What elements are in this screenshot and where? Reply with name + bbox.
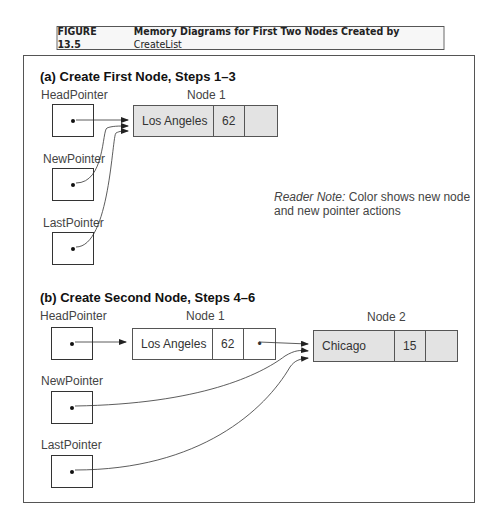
panel-b-node1: Los Angeles 62 • (132, 328, 276, 360)
panel-b-newpointer-box (51, 391, 93, 424)
panel-b-newpointer-label: NewPointer (41, 374, 103, 388)
pointer-dot-icon (71, 247, 75, 251)
figure-title-code: CreateList (134, 38, 182, 51)
panel-a-headpointer-box (52, 104, 94, 137)
panel-a-newpointer-box (52, 168, 94, 201)
figure-number: FIGURE 13.5 (57, 25, 121, 51)
panel-b-headpointer-box (51, 327, 93, 360)
panel-a-headpointer-label: HeadPointer (41, 88, 108, 102)
pointer-dot-icon (70, 406, 74, 410)
reader-note-lead: Reader Note: (274, 190, 345, 204)
panel-b-node1-label: Node 1 (186, 309, 225, 323)
pointer-dot-icon (70, 342, 74, 346)
panel-b-lastpointer-box (51, 455, 93, 488)
pointer-dot-icon (71, 119, 75, 123)
node-next-cell (426, 331, 457, 361)
node-next-cell: • (244, 329, 275, 359)
panel-a-node1: Los Angeles 62 (133, 105, 278, 137)
node-value-cell: 62 (214, 106, 245, 136)
panel-b-headpointer-label: HeadPointer (40, 309, 107, 323)
reader-note-line2: and new pointer actions (274, 204, 470, 218)
node-city-cell: Los Angeles (134, 106, 214, 136)
panel-b-title: (b) Create Second Node, Steps 4–6 (40, 290, 255, 305)
panel-a-lastpointer-box (52, 232, 94, 265)
pointer-dot-icon (70, 470, 74, 474)
figure-title: Memory Diagrams for First Two Nodes Crea… (134, 25, 400, 38)
panel-b-node2: Chicago 15 (313, 330, 458, 362)
node-city-cell: Los Angeles (133, 329, 213, 359)
panel-b-lastpointer-label: LastPointer (41, 438, 102, 452)
panel-a-newpointer-label: NewPointer (43, 152, 105, 166)
reader-note: Reader Note: Color shows new node and ne… (274, 190, 470, 218)
panel-a-title: (a) Create First Node, Steps 1–3 (40, 69, 236, 84)
pointer-dot-icon (71, 183, 75, 187)
figure-caption: FIGURE 13.5 Memory Diagrams for First Tw… (57, 26, 445, 50)
panel-a-node1-label: Node 1 (187, 88, 226, 102)
node-city-cell: Chicago (314, 331, 395, 361)
panel-b-node2-label: Node 2 (367, 310, 406, 324)
reader-note-line1: Color shows new node (349, 190, 470, 204)
node-value-cell: 62 (213, 329, 244, 359)
panel-a-lastpointer-label: LastPointer (43, 216, 104, 230)
node-value-cell: 15 (395, 331, 426, 361)
node-next-cell (245, 106, 276, 136)
